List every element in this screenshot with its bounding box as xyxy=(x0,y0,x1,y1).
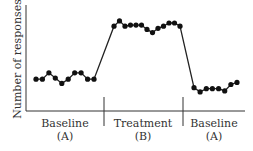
data-series xyxy=(33,18,239,94)
data-point xyxy=(144,27,149,32)
phase-label-baseline-2: Baseline xyxy=(190,117,237,130)
data-point xyxy=(177,24,182,29)
data-point xyxy=(228,82,233,87)
data-point xyxy=(216,86,221,91)
data-point xyxy=(53,76,58,81)
data-point xyxy=(133,23,138,28)
data-point xyxy=(66,77,71,82)
data-point xyxy=(139,23,144,28)
data-point xyxy=(111,24,116,29)
data-line xyxy=(36,21,237,92)
phase-label-treatment: Treatment xyxy=(114,117,173,130)
data-point xyxy=(191,85,196,90)
data-point xyxy=(72,70,77,75)
data-point xyxy=(85,77,90,82)
reversal-design-chart: Number of responses Baseline (A) Treatme… xyxy=(0,0,253,151)
data-point xyxy=(172,20,177,25)
data-point xyxy=(234,80,239,85)
phase-code-b: (B) xyxy=(135,130,152,143)
data-point xyxy=(79,70,84,75)
y-axis-label: Number of responses xyxy=(11,0,24,119)
phase-code-a-2: (A) xyxy=(206,130,223,143)
phase-label-baseline-1: Baseline xyxy=(41,117,88,130)
data-point xyxy=(59,81,64,86)
data-point xyxy=(150,30,155,35)
data-point xyxy=(204,86,209,91)
data-point xyxy=(117,18,122,23)
data-point xyxy=(33,77,38,82)
data-point xyxy=(46,70,51,75)
data-point xyxy=(166,20,171,25)
data-point xyxy=(128,23,133,28)
data-point xyxy=(198,89,203,94)
data-point xyxy=(210,86,215,91)
data-point xyxy=(161,24,166,29)
data-point xyxy=(122,24,127,29)
data-point xyxy=(155,26,160,31)
data-point xyxy=(91,77,96,82)
phase-code-a-1: (A) xyxy=(57,130,74,143)
data-point xyxy=(222,88,227,93)
data-point xyxy=(40,77,45,82)
